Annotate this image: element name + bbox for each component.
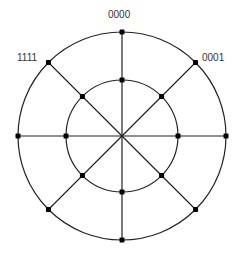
inner-node bbox=[159, 173, 164, 178]
outer-node bbox=[46, 60, 51, 65]
inner-node bbox=[80, 94, 85, 99]
inner-node bbox=[159, 94, 164, 99]
inner-node bbox=[120, 190, 125, 195]
outer-node bbox=[224, 134, 229, 139]
node-label-top: 0000 bbox=[108, 10, 130, 20]
spoke bbox=[122, 62, 196, 136]
spoke bbox=[48, 136, 122, 210]
outer-node bbox=[193, 60, 198, 65]
outer-node bbox=[16, 134, 21, 139]
outer-node bbox=[46, 207, 51, 212]
outer-node bbox=[120, 30, 125, 35]
inner-node bbox=[176, 134, 181, 139]
node-label-upper-left: 1111 bbox=[17, 53, 37, 63]
spoke bbox=[48, 62, 122, 136]
inner-node bbox=[80, 173, 85, 178]
outer-node bbox=[193, 207, 198, 212]
inner-node bbox=[64, 134, 69, 139]
node-label-upper-right: 0001 bbox=[202, 53, 224, 63]
inner-node bbox=[120, 78, 125, 83]
radial-network-diagram bbox=[0, 0, 240, 257]
outer-node bbox=[120, 238, 125, 243]
spoke bbox=[122, 136, 196, 210]
